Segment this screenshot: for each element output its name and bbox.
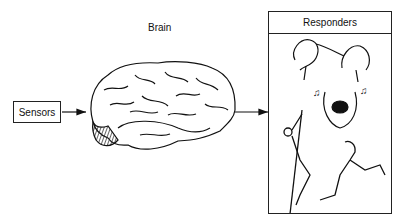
sensors-label: Sensors xyxy=(19,107,56,118)
brain-icon xyxy=(91,62,235,150)
brain-label: Brain xyxy=(148,22,171,33)
responders-box: Responders xyxy=(268,11,392,214)
responders-header: Responders xyxy=(269,12,391,34)
responders-label: Responders xyxy=(303,17,357,28)
sensors-box: Sensors xyxy=(13,101,61,123)
